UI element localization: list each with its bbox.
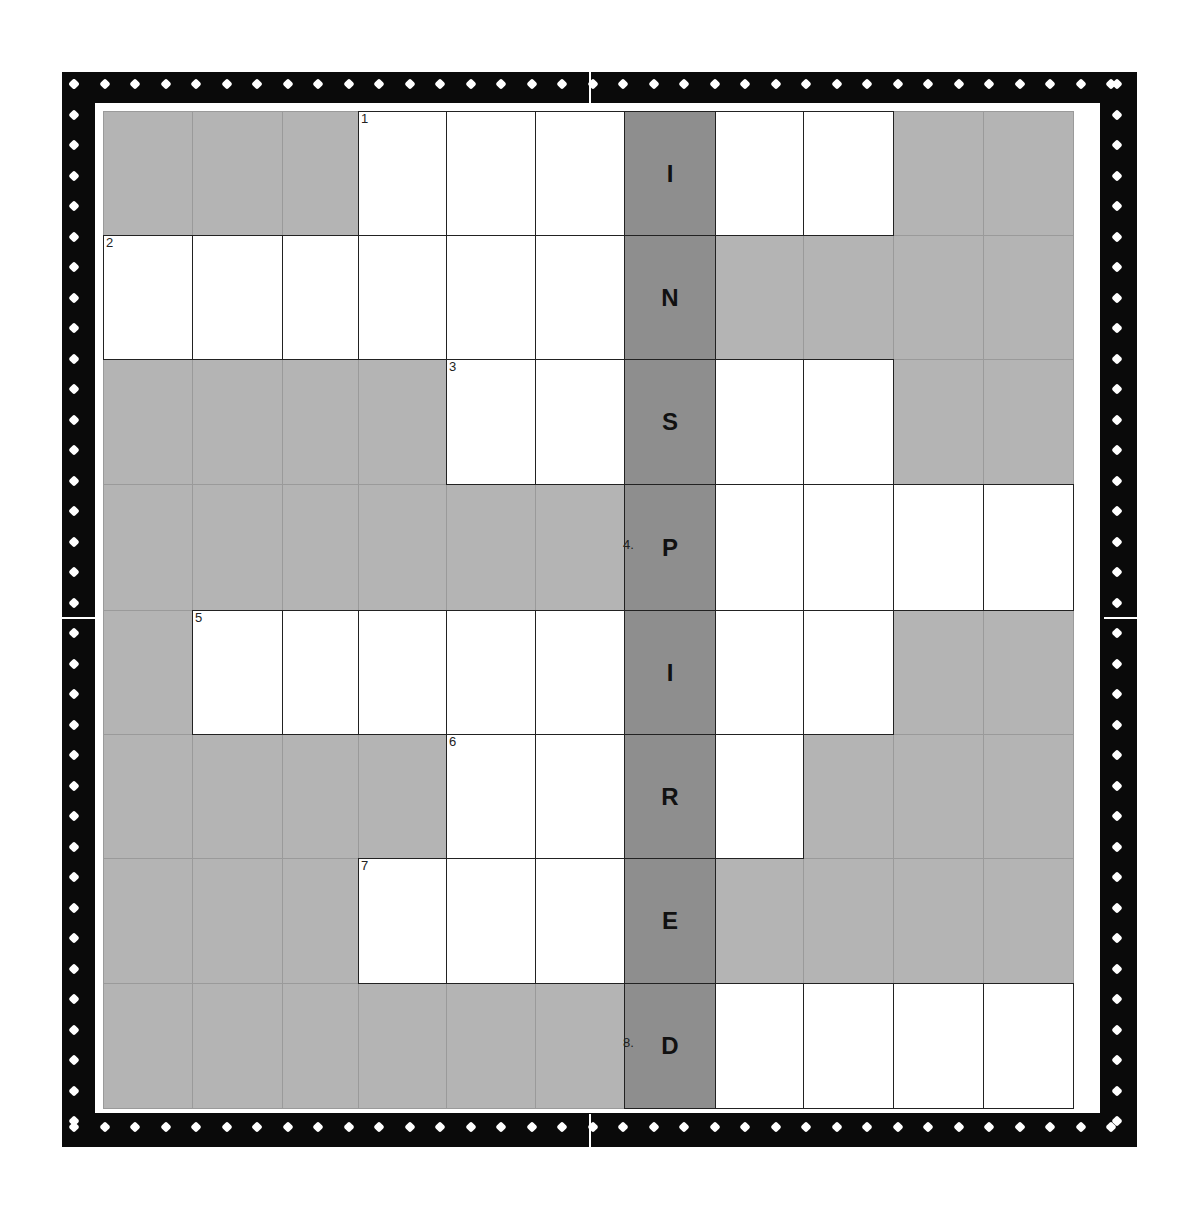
frame-dot [1111,536,1122,547]
answer-cell[interactable] [446,610,536,735]
clue-number: 6 [449,735,456,748]
frame-dot [648,78,659,89]
answer-cell[interactable] [893,983,984,1109]
blocked-cell [803,858,894,984]
answer-cell[interactable] [803,484,894,611]
frame-dot [251,1121,262,1132]
frame-dot [953,1121,964,1132]
key-letter: P [662,534,678,562]
key-cell[interactable]: R [624,734,716,859]
blocked-cell [358,359,447,485]
frame-dot [68,1054,79,1065]
answer-cell[interactable]: 2 [103,235,193,360]
frame-dot [1111,170,1122,181]
frame-dot [1111,963,1122,974]
blocked-cell [983,235,1074,360]
answer-cell[interactable] [535,235,625,360]
frame-dot [709,78,720,89]
frame-dot [1111,109,1122,120]
answer-cell[interactable] [983,983,1074,1109]
answer-cell[interactable] [803,983,894,1109]
answer-cell[interactable] [893,484,984,611]
frame-dot [617,78,628,89]
frame-dot [312,78,323,89]
blocked-cell [803,235,894,360]
frame-dot [1044,1121,1055,1132]
frame-dot [1111,749,1122,760]
frame-dot [1014,1121,1025,1132]
answer-cell[interactable] [803,359,894,485]
blocked-cell [103,111,193,236]
answer-cell[interactable] [282,610,359,735]
answer-cell[interactable]: 1 [358,111,447,236]
frame-dot [68,597,79,608]
key-cell[interactable]: 8.D [624,983,716,1109]
frame-dot [282,1121,293,1132]
key-letter: S [662,408,678,436]
answer-cell[interactable] [446,235,536,360]
answer-cell[interactable] [535,359,625,485]
answer-cell[interactable] [715,734,804,859]
answer-cell[interactable] [715,359,804,485]
blocked-cell [446,983,536,1109]
frame-dot [68,566,79,577]
frame-dot [68,658,79,669]
frame-dot [1111,292,1122,303]
frame-seam [589,72,591,105]
frame-dot [68,749,79,760]
frame-dot [312,1121,323,1132]
answer-cell[interactable] [282,235,359,360]
answer-cell[interactable] [535,858,625,984]
answer-cell[interactable] [446,858,536,984]
frame-dot [1111,414,1122,425]
blocked-cell [103,610,193,735]
answer-cell[interactable] [535,111,625,236]
frame-dot [68,292,79,303]
blocked-cell [192,359,283,485]
answer-cell[interactable]: 5 [192,610,283,735]
answer-cell[interactable] [715,484,804,611]
answer-cell[interactable] [358,610,447,735]
frame-dot [129,78,140,89]
frame-dot [99,1121,110,1132]
answer-cell[interactable] [715,983,804,1109]
frame-dot [861,1121,872,1132]
key-cell[interactable]: N [624,235,716,360]
answer-cell[interactable]: 3 [446,359,536,485]
frame-dot [953,78,964,89]
blocked-cell [103,484,193,611]
key-cell[interactable]: 4.P [624,484,716,611]
frame-dot [1075,78,1086,89]
frame-dot [892,78,903,89]
answer-cell[interactable]: 6 [446,734,536,859]
blocked-cell [446,484,536,611]
answer-cell[interactable] [192,235,283,360]
blocked-cell [983,359,1074,485]
answer-cell[interactable] [803,610,894,735]
blocked-cell [192,734,283,859]
key-cell[interactable]: I [624,610,716,735]
answer-cell[interactable] [446,111,536,236]
blocked-cell [358,734,447,859]
answer-cell[interactable] [358,235,447,360]
answer-cell[interactable] [535,734,625,859]
frame-dot [1111,200,1122,211]
key-cell[interactable]: E [624,858,716,984]
answer-cell[interactable] [715,111,804,236]
frame-dot [190,78,201,89]
blocked-cell [103,983,193,1109]
frame-dot [434,1121,445,1132]
answer-cell[interactable] [983,484,1074,611]
key-cell[interactable]: S [624,359,716,485]
clue-number: 3 [449,360,456,373]
key-cell[interactable]: I [624,111,716,236]
frame-dot [1111,1054,1122,1065]
answer-cell[interactable] [803,111,894,236]
answer-cell[interactable] [535,610,625,735]
answer-cell[interactable]: 7 [358,858,447,984]
frame-dot [68,414,79,425]
blocked-cell [282,484,359,611]
answer-cell[interactable] [715,610,804,735]
frame-dot [648,1121,659,1132]
blocked-cell [893,111,984,236]
